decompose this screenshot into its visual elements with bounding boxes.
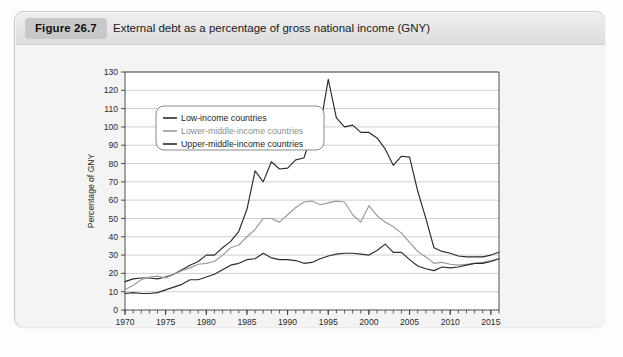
x-tick-label-2015: 2015 <box>481 317 500 327</box>
x-tick-label-1970: 1970 <box>115 317 134 327</box>
legend-label-2: Lower-middle-income countries <box>181 126 304 136</box>
y-tick-label-80: 80 <box>108 159 118 169</box>
figure-number-badge: Figure 26.7 <box>25 18 107 39</box>
x-tick-label-1985: 1985 <box>237 317 256 327</box>
y-tick-label-50: 50 <box>108 214 118 224</box>
line-chart: 0102030405060708090100110120130Percentag… <box>16 45 605 327</box>
y-tick-label-0: 0 <box>113 305 118 315</box>
y-tick-label-70: 70 <box>108 177 118 187</box>
x-tick-label-2000: 2000 <box>359 317 378 327</box>
x-tick-label-2010: 2010 <box>441 317 460 327</box>
y-tick-label-130: 130 <box>104 67 119 77</box>
legend-label-1: Low-income countries <box>181 113 267 123</box>
chart-plot-area: 0102030405060708090100110120130Percentag… <box>16 45 605 327</box>
y-tick-label-110: 110 <box>104 104 118 114</box>
y-tick-label-10: 10 <box>108 287 118 297</box>
legend-label-3: Upper-middle-income countries <box>181 139 304 149</box>
y-axis-title: Percentage of GNY <box>86 153 96 228</box>
y-tick-label-100: 100 <box>104 122 119 132</box>
y-tick-label-90: 90 <box>108 140 118 150</box>
y-tick-label-40: 40 <box>108 232 118 242</box>
figure-card: Figure 26.7 External debt as a percentag… <box>14 11 605 327</box>
y-tick-label-30: 30 <box>108 250 118 260</box>
x-tick-label-1980: 1980 <box>197 317 216 327</box>
figure-header: Figure 26.7 External debt as a percentag… <box>16 13 605 45</box>
y-tick-label-120: 120 <box>104 85 119 95</box>
y-tick-label-20: 20 <box>108 268 118 278</box>
x-tick-label-1975: 1975 <box>156 317 175 327</box>
y-tick-label-60: 60 <box>108 195 118 205</box>
figure-title: External debt as a percentage of gross n… <box>113 18 430 39</box>
x-tick-label-1990: 1990 <box>278 317 297 327</box>
x-tick-label-1995: 1995 <box>319 317 338 327</box>
x-tick-label-2005: 2005 <box>400 317 419 327</box>
